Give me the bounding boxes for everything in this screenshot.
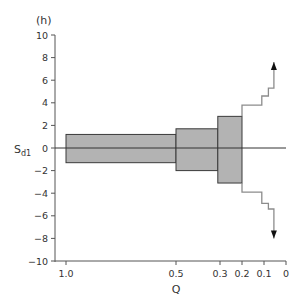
y-tick-label: −4 xyxy=(34,188,48,199)
x-tick-label: 0 xyxy=(283,268,289,279)
x-tick-label: 0.3 xyxy=(212,268,227,279)
step-lines xyxy=(242,62,277,238)
y-axis: 1086420−2−4−6−8−10 xyxy=(28,30,55,267)
bars xyxy=(66,116,242,183)
arrow-down-icon xyxy=(271,230,277,238)
y-axis-title: Sd1 xyxy=(14,143,31,158)
x-tick-label: 0.5 xyxy=(168,268,183,279)
x-axis-title: Q xyxy=(172,283,181,296)
y-tick-label: 6 xyxy=(42,75,48,86)
y-tick-label: 4 xyxy=(42,97,48,108)
x-axis: 1.00.50.30.20.10 xyxy=(55,261,289,279)
y-tick-label: −6 xyxy=(34,210,48,221)
bar xyxy=(176,129,218,171)
panel-label: (h) xyxy=(36,14,52,27)
arrow-up-icon xyxy=(271,62,277,70)
step-line xyxy=(242,62,274,116)
y-tick-label: −10 xyxy=(28,256,48,267)
step-line xyxy=(242,183,274,238)
bar xyxy=(66,134,176,162)
x-tick-label: 0.2 xyxy=(234,268,249,279)
x-tick-label: 0.1 xyxy=(256,268,271,279)
y-tick-label: 2 xyxy=(42,120,48,131)
y-tick-label: −8 xyxy=(34,233,48,244)
x-tick-label: 1.0 xyxy=(58,268,73,279)
y-tick-label: 10 xyxy=(36,30,48,41)
y-tick-label: −2 xyxy=(34,165,48,176)
chart: 1086420−2−4−6−8−10 1.00.50.30.20.10 (h) … xyxy=(0,0,306,308)
y-tick-label: 8 xyxy=(42,52,48,63)
bar xyxy=(218,116,242,183)
y-tick-label: 0 xyxy=(42,143,48,154)
